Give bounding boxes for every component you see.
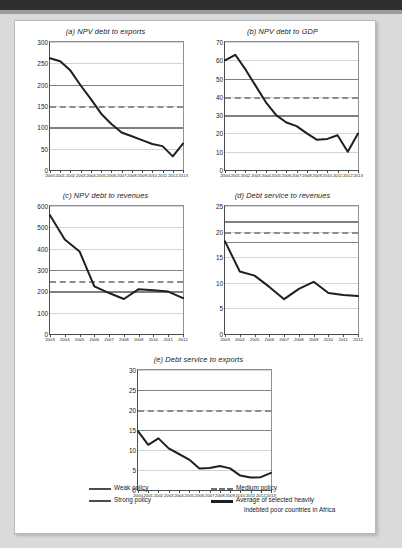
x-axis-tick-label: 2008	[119, 337, 129, 342]
y-axis-tick-label: 500	[37, 224, 48, 231]
x-axis-tick-label: 2012	[168, 173, 178, 178]
x-axis-tick-label: 2009	[312, 173, 322, 178]
x-axis-tick-label: 2012	[343, 173, 353, 178]
x-axis-tick-label: 2000	[220, 173, 230, 178]
y-axis-tick-label: 200	[37, 288, 48, 295]
chart-e-plot: 0510152025302000200120022003200420052006…	[137, 369, 272, 491]
data-series-line	[50, 206, 183, 334]
x-axis-tick-label: 2007	[104, 337, 114, 342]
x-axis-tick-label: 2011	[333, 173, 342, 178]
y-axis-tick-label: 10	[129, 447, 136, 454]
y-axis-tick-label: 20	[129, 407, 136, 414]
y-axis-tick-label: 150	[37, 103, 48, 110]
x-axis-tick-label: 2006	[90, 337, 100, 342]
y-axis-tick-label: 50	[216, 75, 223, 82]
x-axis-tick-label: 2011	[158, 173, 167, 178]
y-axis-tick-label: 600	[37, 203, 48, 210]
x-axis-tick-label: 2002	[241, 173, 251, 178]
y-axis-tick-label: 300	[37, 267, 48, 274]
x-axis-tick-label: 2005	[250, 337, 260, 342]
x-axis-tick-label: 2007	[279, 337, 289, 342]
legend-swatch-strong-policy	[89, 500, 111, 502]
x-axis-tick-label: 2006	[107, 173, 117, 178]
y-axis-tick-label: 250	[37, 60, 48, 67]
x-axis-tick-label: 2009	[309, 337, 319, 342]
y-axis-tick-label: 100	[37, 309, 48, 316]
data-series-line	[225, 42, 358, 170]
top-gray-band	[0, 10, 402, 14]
x-axis-tick-label: 2008	[302, 173, 312, 178]
chart-a-plot: 0501001502002503002000200120022003200420…	[49, 41, 184, 171]
x-axis-tick-label: 2004	[86, 173, 96, 178]
x-axis-tick-label: 2007	[292, 173, 302, 178]
legend-label-medium-policy: Medium policy	[236, 484, 277, 491]
y-axis-tick-label: 300	[37, 39, 48, 46]
legend-label-average-line2: indebted poor countries in Africa	[244, 506, 335, 513]
x-axis-tick-label: 2003	[220, 337, 230, 342]
x-axis-tick-label: 2002	[66, 173, 76, 178]
x-axis-tick-label: 2011	[339, 337, 348, 342]
legend-label-weak-policy: Weak policy	[114, 484, 148, 491]
y-axis-tick-label: 30	[129, 367, 136, 374]
x-axis-tick-label: 2003	[45, 337, 55, 342]
y-axis-tick-label: 100	[37, 124, 48, 131]
x-axis-tick-label: 2003	[76, 173, 86, 178]
x-axis-tick-label: 2010	[324, 337, 334, 342]
y-axis-tick-label: 25	[129, 387, 136, 394]
y-axis-tick-label: 30	[216, 112, 223, 119]
x-axis-tick-label: 2012	[353, 337, 363, 342]
x-axis-tick-label: 2009	[137, 173, 147, 178]
chart-d-plot: 0510152025200320042005200620072008200920…	[224, 205, 359, 335]
x-axis-tick-label: 2004	[235, 337, 245, 342]
y-axis-tick-label: 15	[216, 254, 223, 261]
legend-label-strong-policy: Strong policy	[114, 496, 151, 503]
y-axis-tick-label: 50	[41, 145, 48, 152]
y-axis-tick-label: 40	[216, 93, 223, 100]
chart-c: (c) NPV debt to revenues 010020030040050…	[23, 191, 188, 351]
y-axis-tick-label: 20	[216, 130, 223, 137]
x-axis-tick-label: 2005	[96, 173, 106, 178]
x-axis-tick-label: 2000	[45, 173, 55, 178]
data-series-line	[138, 370, 271, 490]
y-axis-tick-label: 25	[216, 203, 223, 210]
figure-page: (a) NPV debt to exports 0501001502002503…	[14, 20, 376, 534]
y-axis-tick-label: 5	[132, 467, 136, 474]
y-axis-tick-label: 70	[216, 39, 223, 46]
y-axis-tick-label: 5	[219, 305, 223, 312]
chart-c-title: (c) NPV debt to revenues	[23, 191, 188, 200]
chart-b-title: (b) NPV debt to GDP	[200, 27, 365, 36]
chart-a: (a) NPV debt to exports 0501001502002503…	[23, 27, 188, 187]
x-axis-tick-label: 2001	[55, 173, 65, 178]
y-axis-tick-label: 10	[216, 148, 223, 155]
legend-swatch-medium-policy	[211, 488, 233, 490]
x-axis-tick-label: 2007	[117, 173, 127, 178]
y-axis-tick-label: 400	[37, 245, 48, 252]
x-axis-tick-label: 2006	[265, 337, 275, 342]
x-axis-tick-label: 2005	[75, 337, 85, 342]
chart-b-plot: 0102030405060702000200120022003200420052…	[224, 41, 359, 171]
chart-e-title: (e) Debt service to exports	[111, 355, 286, 364]
y-axis-tick-label: 15	[129, 427, 136, 434]
legend-swatch-average	[211, 500, 233, 503]
x-axis-tick-label: 2004	[60, 337, 70, 342]
legend-label-average-line1: Average of selected heavily	[236, 496, 314, 503]
x-axis-tick-label: 2008	[294, 337, 304, 342]
x-axis-tick-label: 2013	[353, 173, 363, 178]
legend: Weak policy Strong policy Medium policy …	[15, 483, 375, 525]
y-axis-tick-label: 20	[216, 228, 223, 235]
y-axis-tick-label: 60	[216, 57, 223, 64]
x-axis-tick-label: 2008	[127, 173, 137, 178]
x-axis-tick-label: 2010	[148, 173, 158, 178]
x-axis-tick-label: 2011	[164, 337, 173, 342]
x-axis-tick-label: 2013	[178, 173, 188, 178]
chart-b: (b) NPV debt to GDP 01020304050607020002…	[200, 27, 365, 187]
data-series-line	[50, 42, 183, 170]
x-axis-tick-label: 2012	[178, 337, 188, 342]
data-series-line	[225, 206, 358, 334]
chart-d-title: (d) Debt service to revenues	[200, 191, 365, 200]
top-dark-band	[0, 0, 402, 10]
x-axis-tick-label: 2004	[261, 173, 271, 178]
x-axis-tick-label: 2001	[230, 173, 240, 178]
y-axis-tick-label: 200	[37, 81, 48, 88]
x-axis-tick-label: 2006	[282, 173, 292, 178]
